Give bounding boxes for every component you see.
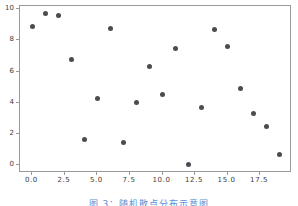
data-point (186, 162, 191, 167)
x-tick-label: 7.5 (123, 176, 136, 184)
y-tick-mark (16, 39, 19, 40)
data-point (199, 105, 204, 110)
data-point (43, 11, 48, 16)
x-tick-label: 12.5 (185, 176, 203, 184)
x-tick-mark (259, 172, 260, 175)
y-tick-mark (16, 71, 19, 72)
figure-caption: 图 3：随机散点分布示意图 (0, 197, 298, 206)
y-tick-mark (16, 133, 19, 134)
data-point (95, 96, 100, 101)
data-point (134, 100, 139, 105)
x-tick-mark (129, 172, 130, 175)
x-tick-label: 10.0 (153, 176, 171, 184)
data-point (251, 111, 256, 116)
data-point (108, 26, 113, 31)
y-tick-mark (16, 164, 19, 165)
y-tick-label: 4 (10, 98, 14, 106)
x-tick-mark (194, 172, 195, 175)
data-point (82, 137, 87, 142)
data-point (277, 152, 282, 157)
y-tick-mark (16, 8, 19, 9)
scatter-plot-figure: 0.02.55.07.510.012.515.017.5 0246810 图 3… (0, 0, 298, 206)
x-tick-label: 15.0 (218, 176, 236, 184)
data-point (69, 57, 74, 62)
x-tick-label: 2.5 (57, 176, 70, 184)
x-tick-label: 5.0 (90, 176, 103, 184)
x-tick-mark (64, 172, 65, 175)
data-point (173, 46, 178, 51)
data-point (30, 24, 35, 29)
data-point (121, 140, 126, 145)
y-tick-label: 10 (5, 4, 14, 12)
data-point (238, 86, 243, 91)
data-point (212, 27, 217, 32)
x-tick-mark (31, 172, 32, 175)
data-point (225, 44, 230, 49)
data-point (56, 13, 61, 18)
y-tick-mark (16, 102, 19, 103)
data-point (160, 92, 165, 97)
x-tick-label: 0.0 (25, 176, 38, 184)
y-tick-label: 8 (10, 35, 14, 43)
y-tick-label: 2 (10, 129, 14, 137)
x-tick-mark (96, 172, 97, 175)
y-tick-label: 0 (10, 160, 14, 168)
x-tick-label: 17.5 (250, 176, 268, 184)
data-point (264, 124, 269, 129)
data-point (147, 64, 152, 69)
x-tick-mark (227, 172, 228, 175)
y-tick-label: 6 (10, 67, 14, 75)
plot-data-area (20, 6, 290, 171)
plot-axes-frame (19, 5, 291, 172)
x-tick-mark (162, 172, 163, 175)
